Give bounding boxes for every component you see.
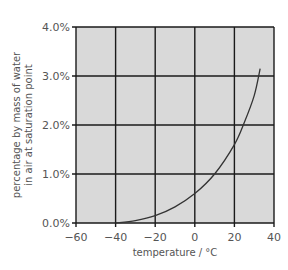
y-tick-label: 1.0%: [42, 168, 70, 181]
y-tick-label: 2.0%: [42, 119, 70, 132]
x-tick-label: −60: [64, 231, 87, 244]
y-tick-label: 4.0%: [42, 21, 70, 34]
x-tick-label: −20: [144, 231, 167, 244]
x-axis-label: temperature / °C: [133, 247, 218, 258]
x-tick-label: −40: [104, 231, 127, 244]
y-axis-label-line2: in air at saturation point: [23, 64, 34, 185]
x-tick-label: 40: [267, 231, 281, 244]
x-axis-ticks: −60−40−2002040: [64, 231, 281, 244]
y-axis-label-line1: percentage by mass of water: [11, 51, 22, 198]
chart: 0.0%1.0%2.0%3.0%4.0% −60−40−2002040 temp…: [0, 0, 288, 270]
x-tick-label: 20: [227, 231, 241, 244]
y-tick-label: 3.0%: [42, 70, 70, 83]
y-tick-label: 0.0%: [42, 217, 70, 230]
y-axis-ticks: 0.0%1.0%2.0%3.0%4.0%: [42, 21, 70, 230]
x-tick-label: 0: [191, 231, 198, 244]
